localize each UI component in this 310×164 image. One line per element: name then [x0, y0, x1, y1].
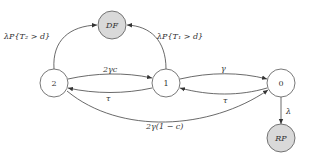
svg-text:0: 0 — [278, 79, 283, 88]
svg-text:1: 1 — [163, 79, 168, 88]
node-df: DF — [98, 11, 126, 39]
edge-0-to-1 — [180, 88, 267, 94]
edge-label-2-1: 2γc — [102, 65, 118, 74]
node-1: 1 — [152, 69, 180, 97]
node-2: 2 — [40, 69, 68, 97]
svg-text:2: 2 — [51, 79, 56, 88]
svg-text:DF: DF — [105, 21, 118, 30]
edge-label-0-1: τ — [223, 96, 228, 105]
edge-label-1-0: γ — [221, 64, 226, 73]
edge-2-to-1 — [68, 74, 152, 79]
edge-label-1-2: τ — [106, 94, 111, 103]
edge-label-1-df: λP{T₁ > d} — [156, 32, 203, 41]
edge-label-2-0: 2γ(1 − c) — [145, 122, 183, 131]
state-diagram: λP{T₂ > d} λP{T₁ > d} 2γc τ γ τ 2γ(1 − c… — [0, 0, 310, 164]
edge-label-0-rp: λ — [285, 107, 291, 116]
edge-1-to-2 — [68, 88, 152, 93]
node-rp: RP — [267, 124, 295, 152]
edge-1-to-0 — [180, 74, 267, 79]
svg-text:RP: RP — [274, 134, 287, 143]
edge-2-to-df — [54, 25, 97, 69]
edge-label-2-df: λP{T₂ > d} — [3, 32, 50, 41]
node-0: 0 — [267, 69, 295, 97]
